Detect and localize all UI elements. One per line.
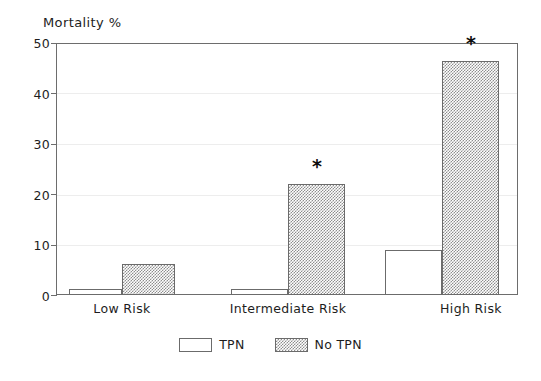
bar-low-risk-no-tpn: [122, 264, 175, 295]
legend-swatch-no-tpn: [275, 338, 308, 352]
y-tick-label-30: 30: [0, 137, 50, 152]
bar-high-risk-tpn: [385, 250, 442, 295]
legend-swatch-tpn: [179, 338, 212, 352]
legend-label-no-tpn: No TPN: [315, 337, 362, 352]
x-label-low-risk: Low Risk: [93, 301, 150, 316]
x-label-intermediate-risk: Intermediate Risk: [230, 301, 346, 316]
bar-intermediate-risk-no-tpn: [288, 184, 345, 295]
bar-intermediate-risk-tpn: [231, 289, 288, 295]
y-tick-mark-0: [51, 295, 57, 296]
significance-marker-high-risk: *: [466, 34, 476, 53]
y-tick-label-40: 40: [0, 87, 50, 102]
mortality-bar-chart: Mortality % 50 40 30 20 10 0 * *: [0, 0, 541, 381]
bar-low-risk-tpn: [69, 289, 122, 295]
chart-legend: TPN No TPN: [0, 337, 541, 352]
y-tick-label-50: 50: [0, 36, 50, 51]
legend-label-tpn: TPN: [219, 337, 244, 352]
significance-marker-intermediate-risk: *: [312, 157, 322, 176]
legend-item-no-tpn: No TPN: [275, 337, 362, 352]
y-tick-label-20: 20: [0, 188, 50, 203]
legend-item-tpn: TPN: [179, 337, 244, 352]
y-tick-label-0: 0: [0, 289, 50, 304]
bars-layer: * *: [56, 43, 518, 295]
bar-high-risk-no-tpn: [442, 61, 499, 295]
x-label-high-risk: High Risk: [440, 301, 502, 316]
y-tick-label-10: 10: [0, 238, 50, 253]
y-axis-title: Mortality %: [43, 15, 121, 30]
